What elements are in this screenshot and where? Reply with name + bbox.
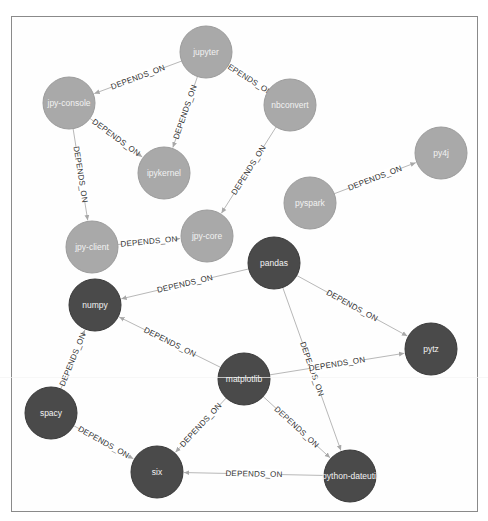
edge-pandas-to-pytz[interactable]: DEPENDS_ON	[297, 275, 408, 336]
node-ipykernel[interactable]: ipykernel	[138, 147, 190, 199]
edge-jupyter-to-jpy-console[interactable]: DEPENDS_ON	[94, 61, 181, 94]
edge-label: DEPENDS_ON	[71, 146, 89, 204]
node-label: ipykernel	[147, 168, 181, 178]
edge-matplotlib-to-numpy[interactable]: DEPENDS_ON	[119, 317, 221, 367]
node-pandas[interactable]: pandas	[248, 237, 300, 289]
node-label: numpy	[82, 300, 108, 310]
node-pyspark[interactable]: pyspark	[284, 177, 336, 229]
edge-label: DEPENDS_ON	[230, 144, 268, 197]
node-label: pyspark	[295, 198, 326, 208]
node-label: jpy-console	[47, 98, 91, 108]
node-label: py4j	[433, 148, 449, 158]
edges-layer: DEPENDS_ONDEPENDS_ONDEPENDS_ONDEPENDS_ON…	[58, 59, 416, 479]
edge-python-dateutil-to-six[interactable]: DEPENDS_ON	[184, 468, 324, 479]
edge-jpy-console-to-jpy-client[interactable]: DEPENDS_ON	[71, 129, 89, 221]
edge-label: DEPENDS_ON	[120, 234, 178, 248]
node-matplotlib[interactable]: matplotlib	[218, 353, 270, 405]
node-spacy[interactable]: spacy	[25, 387, 77, 439]
edge-label: DEPENDS_ON	[76, 424, 130, 460]
edge-label: DEPENDS_ON	[347, 164, 404, 193]
edge-matplotlib-to-six[interactable]: DEPENDS_ON	[175, 398, 226, 452]
edge-spacy-to-numpy[interactable]: DEPENDS_ON	[58, 330, 88, 389]
edge-matplotlib-to-pytz[interactable]: DEPENDS_ON	[270, 353, 405, 375]
edge-jpy-client-to-jpy-core[interactable]: DEPENDS_ON	[118, 234, 180, 249]
node-label: jpy-client	[74, 242, 109, 252]
edge-jpy-console-to-ipykernel[interactable]: DEPENDS_ON	[90, 117, 142, 158]
edge-label: DEPENDS_ON	[225, 469, 282, 479]
edge-spacy-to-six[interactable]: DEPENDS_ON	[74, 424, 134, 460]
edge-label: DEPENDS_ON	[142, 325, 197, 358]
scan-artifact-line	[0, 377, 488, 378]
node-jpy-core[interactable]: jpy-core	[181, 210, 233, 262]
node-jpy-client[interactable]: jpy-client	[66, 221, 118, 273]
node-pytz[interactable]: pytz	[405, 323, 457, 375]
edge-label: DEPENDS_ON	[110, 63, 167, 91]
node-jupyter[interactable]: jupyter	[180, 26, 232, 78]
node-label: jpy-core	[191, 231, 223, 241]
edge-label: DEPENDS_ON	[172, 84, 199, 141]
edge-pandas-to-numpy[interactable]: DEPENDS_ON	[121, 269, 248, 299]
node-python-dateutil[interactable]: python-dateutil	[322, 450, 378, 502]
node-six[interactable]: six	[131, 446, 183, 498]
edge-label: DEPENDS_ON	[90, 117, 141, 158]
edge-nbconvert-to-jpy-core[interactable]: DEPENDS_ON	[221, 127, 276, 213]
node-label: pytz	[423, 344, 439, 354]
edge-label: DEPENDS_ON	[178, 401, 224, 449]
node-label: nbconvert	[271, 100, 309, 110]
node-label: jupyter	[192, 47, 219, 57]
node-label: python-dateutil	[322, 471, 378, 481]
node-nbconvert[interactable]: nbconvert	[264, 79, 316, 131]
edge-jupyter-to-ipykernel[interactable]: DEPENDS_ON	[172, 77, 199, 148]
edge-label: DEPENDS_ON	[273, 405, 321, 450]
node-jpy-console[interactable]: jpy-console	[43, 77, 95, 129]
node-numpy[interactable]: numpy	[69, 279, 121, 331]
node-label: pandas	[260, 258, 288, 268]
edge-pyspark-to-py4j[interactable]: DEPENDS_ON	[334, 163, 415, 194]
dependency-graph[interactable]: DEPENDS_ONDEPENDS_ONDEPENDS_ONDEPENDS_ON…	[0, 0, 488, 521]
edge-matplotlib-to-python-dateutil[interactable]: DEPENDS_ON	[263, 397, 330, 458]
node-py4j[interactable]: py4j	[415, 127, 467, 179]
node-label: six	[152, 467, 163, 477]
node-label: spacy	[40, 408, 63, 418]
edge-label: DEPENDS_ON	[325, 288, 379, 323]
edge-label: DEPENDS_ON	[58, 331, 88, 387]
edge-label: DEPENDS_ON	[308, 355, 366, 373]
node-label: matplotlib	[226, 374, 263, 384]
